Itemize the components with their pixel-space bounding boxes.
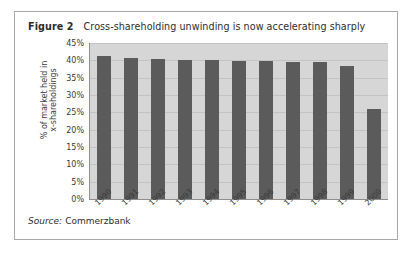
chart-area: % of market held in x-shareholdings 0%5%… [15, 43, 397, 208]
y-axis-title-line-1: % of market held in [40, 61, 50, 139]
y-axis-tick-5pct: 5% [71, 177, 84, 186]
x-axis-tick-cell: 1995 [231, 200, 245, 234]
bar-1993 [178, 60, 192, 199]
y-axis-tick-20pct: 20% [66, 125, 84, 134]
y-axis-tick-10pct: 10% [66, 160, 84, 169]
figure-caption-text: Cross-shareholding unwinding is now acce… [84, 21, 366, 32]
x-axis-tick-cell: 1998 [312, 200, 326, 234]
y-axis-tick-0pct: 0% [71, 195, 84, 204]
bar-1999 [340, 66, 354, 199]
bar-1996 [259, 61, 273, 199]
y-axis-tick-40pct: 40% [66, 56, 84, 65]
x-axis-tick-labels: 1990199119921993199419951996199719981999… [89, 200, 387, 234]
y-axis-tick-30pct: 30% [66, 91, 84, 100]
bar-1994 [205, 60, 219, 199]
figure-number-label: Figure 2 [28, 21, 74, 32]
figure-title: Figure 2Cross-shareholding unwinding is … [28, 21, 365, 32]
y-axis-tick-25pct: 25% [66, 108, 84, 117]
figure-container: Figure 2Cross-shareholding unwinding is … [14, 11, 398, 240]
y-axis-tick-labels: 0%5%10%15%20%25%30%35%40%45% [57, 43, 86, 199]
bar-1990 [97, 56, 111, 199]
bar-1997 [286, 62, 300, 199]
y-axis-tick-15pct: 15% [66, 143, 84, 152]
x-axis-tick-cell: 2000 [366, 200, 380, 234]
x-axis-tick-cell: 1992 [150, 200, 164, 234]
bar-1992 [151, 59, 165, 199]
x-axis-tick-cell: 1999 [339, 200, 353, 234]
source-label: Source: [28, 216, 62, 226]
x-axis-tick-cell: 1996 [258, 200, 272, 234]
x-axis-tick-cell: 1997 [285, 200, 299, 234]
y-axis-tick-45pct: 45% [66, 39, 84, 48]
y-axis-tick-35pct: 35% [66, 73, 84, 82]
source-note: Source:Commerzbank [28, 216, 131, 226]
bar-2000 [367, 109, 381, 199]
bar-1991 [124, 58, 138, 199]
source-value: Commerzbank [65, 216, 130, 226]
x-axis-tick-cell: 1993 [177, 200, 191, 234]
bar-1995 [232, 61, 246, 199]
bar-1998 [313, 62, 327, 199]
x-axis-tick-cell: 1994 [204, 200, 218, 234]
plot-area [89, 43, 388, 200]
bar-series [90, 43, 388, 199]
